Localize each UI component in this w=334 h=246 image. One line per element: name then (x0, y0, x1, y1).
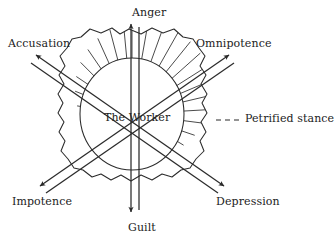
label-guilt: Guilt (128, 222, 156, 234)
label-anger: Anger (132, 7, 166, 19)
label-petrified-stance: Petrified stance (245, 113, 334, 125)
label-impotence: Impotence (12, 196, 72, 208)
label-accusation: Accusation (8, 38, 70, 50)
label-depression: Depression (216, 196, 280, 208)
label-the-worker: The Worker (104, 112, 170, 124)
label-omnipotence: Omnipotence (196, 38, 272, 50)
